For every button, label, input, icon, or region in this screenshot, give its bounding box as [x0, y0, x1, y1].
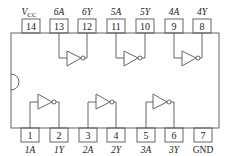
svg-text:7: 7: [201, 130, 206, 141]
svg-text:11: 11: [111, 21, 121, 32]
svg-text:6: 6: [172, 130, 177, 141]
svg-text:10: 10: [140, 21, 150, 32]
top-pin-numbers: 14 13 12 11 10 9 8: [26, 21, 205, 32]
svg-text:5Y: 5Y: [140, 7, 152, 17]
svg-text:5A: 5A: [111, 7, 122, 17]
svg-text:1Y: 1Y: [54, 145, 66, 155]
chip-body: [11, 33, 219, 128]
chip-notch: [11, 74, 19, 90]
inverter-4: [174, 33, 202, 66]
svg-text:1A: 1A: [25, 145, 36, 155]
top-pin-labels: VCC 6A 6Y 5A 5Y 4A 4Y: [21, 7, 208, 19]
svg-text:2A: 2A: [83, 145, 94, 155]
svg-text:14: 14: [26, 21, 36, 32]
svg-text:8: 8: [200, 21, 205, 32]
svg-text:12: 12: [82, 21, 92, 32]
svg-text:5: 5: [144, 130, 149, 141]
svg-text:2Y: 2Y: [111, 145, 123, 155]
svg-text:9: 9: [172, 21, 177, 32]
svg-text:4A: 4A: [169, 7, 180, 17]
svg-text:13: 13: [54, 21, 64, 32]
svg-text:VCC: VCC: [21, 7, 36, 19]
inverter-6: [59, 33, 87, 66]
inverter-5: [116, 33, 145, 66]
ic-pinout-diagram: 14 13 12 11 10 9 8 VCC 6A 6Y 5A 5Y 4A 4Y…: [0, 0, 229, 156]
svg-text:6A: 6A: [54, 7, 65, 17]
svg-text:3Y: 3Y: [168, 145, 181, 155]
bottom-pin-labels: 1A 1Y 2A 2Y 3A 3Y GND: [25, 145, 214, 155]
svg-text:6Y: 6Y: [82, 7, 94, 17]
bottom-pin-numbers: 1 2 3 4 5 6 7: [28, 130, 206, 141]
inverter-1: [30, 94, 59, 128]
svg-text:GND: GND: [193, 145, 214, 155]
svg-text:1: 1: [28, 130, 33, 141]
svg-text:3A: 3A: [140, 145, 152, 155]
svg-text:4: 4: [114, 130, 119, 141]
inverter-3: [146, 94, 174, 128]
inverter-2: [88, 94, 116, 128]
svg-text:4Y: 4Y: [197, 7, 209, 17]
svg-text:2: 2: [57, 130, 62, 141]
svg-text:3: 3: [86, 130, 91, 141]
